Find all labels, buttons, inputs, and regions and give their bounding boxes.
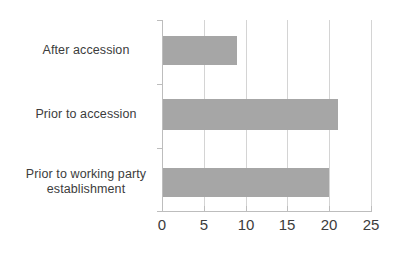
category-label-after-accession: After accession [2, 43, 170, 58]
category-tick-1 [157, 84, 162, 85]
value-tick-label-10: 10 [226, 216, 266, 233]
category-tick-top [157, 20, 162, 21]
category-label-prior-to-accession: Prior to accession [2, 107, 170, 122]
gridline-25 [371, 20, 372, 211]
category-tick-2 [157, 148, 162, 149]
value-tick-label-25: 25 [351, 216, 391, 233]
value-tick-label-5: 5 [184, 216, 224, 233]
value-tick-label-20: 20 [309, 216, 349, 233]
value-tick-label-15: 15 [267, 216, 307, 233]
category-axis-line [162, 20, 163, 211]
value-tick-25 [371, 206, 372, 211]
value-tick-label-0: 0 [142, 216, 182, 233]
category-label-prior-to-working-party-establishment: Prior to working party establishment [2, 167, 170, 197]
value-tick-0 [162, 206, 163, 211]
value-tick-15 [287, 206, 288, 211]
bar-after-accession [162, 36, 237, 65]
value-axis-line [162, 211, 372, 212]
bar-prior-to-working-party-establishment [162, 168, 329, 197]
value-tick-5 [204, 206, 205, 211]
value-tick-10 [246, 206, 247, 211]
bar-chart: After accession Prior to accession Prior… [0, 0, 394, 255]
value-tick-20 [329, 206, 330, 211]
plot-area [162, 20, 371, 211]
bar-prior-to-accession [162, 99, 338, 130]
